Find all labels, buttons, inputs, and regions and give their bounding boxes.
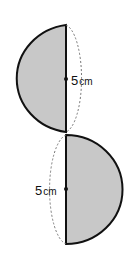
bottom-radius-label: 5cm [35,183,57,198]
top-center-dot [64,77,68,81]
top-radius-label: 5cm [71,73,93,88]
bottom-center-dot [64,187,68,191]
top-semicircle-shaded [17,25,66,132]
s-shape-diagram: 5cm 5cm [0,0,131,257]
bottom-semicircle-shaded [66,135,123,244]
